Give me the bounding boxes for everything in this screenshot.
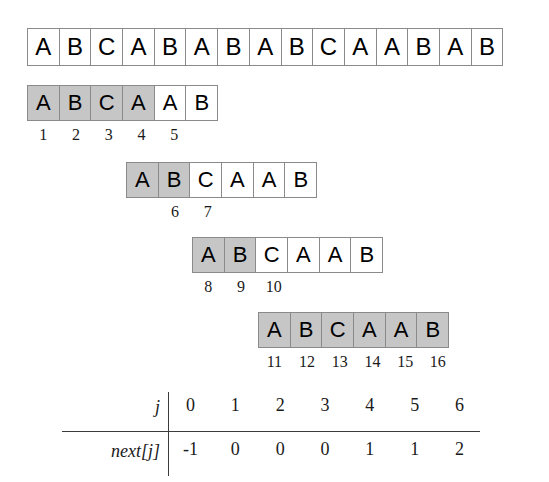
table-next-value: 1: [347, 440, 392, 470]
attempt-2-cell: A: [253, 162, 286, 198]
table-j-values: 0123456: [168, 396, 482, 426]
table-j-value: 0: [168, 396, 213, 426]
table-j-value: 1: [213, 396, 258, 426]
table-next-values: -1000112: [168, 440, 482, 470]
attempt-2-cell: C: [189, 162, 222, 198]
attempt-3-cell: A: [287, 237, 320, 273]
attempt-3-cell: A: [319, 237, 352, 273]
table-j-value: 2: [258, 396, 303, 426]
text-cell: A: [122, 28, 155, 66]
text-cell: A: [185, 28, 218, 66]
next-array-table: j next[j] 0123456 -1000112: [60, 392, 482, 478]
attempt-1-cell: A: [27, 85, 60, 121]
table-j-value: 6: [437, 396, 482, 426]
table-next-value: 0: [258, 440, 303, 470]
text-cell: A: [344, 28, 377, 66]
comparison-indices-attempt-4: 111213141516: [258, 354, 468, 376]
pattern-row-attempt-1: ABCAAB: [27, 85, 218, 121]
attempt-4-index-label: 15: [397, 354, 413, 370]
table-next-value: 0: [303, 440, 348, 470]
attempt-2-cell: B: [158, 162, 191, 198]
attempt-1-index-label: 1: [39, 127, 47, 143]
text-cell: A: [249, 28, 282, 66]
text-cell: B: [154, 28, 187, 66]
table-row-label-next: next[j]: [60, 442, 160, 460]
attempt-4-index-label: 16: [430, 354, 446, 370]
attempt-4-cell: C: [321, 312, 354, 348]
attempt-2-cell: A: [221, 162, 254, 198]
table-next-value: -1: [168, 440, 213, 470]
attempt-3-index-label: 9: [237, 279, 245, 295]
pattern-row-attempt-2: ABCAAB: [126, 162, 317, 198]
attempt-3-cell: C: [255, 237, 288, 273]
attempt-3-cell: A: [192, 237, 225, 273]
attempt-1-cell: C: [90, 85, 123, 121]
table-row-label-j: j: [60, 398, 160, 416]
attempt-4-cell: A: [258, 312, 291, 348]
attempt-2-cell: A: [126, 162, 159, 198]
attempt-2-index-label: 7: [204, 204, 212, 220]
attempt-3-cell: B: [350, 237, 383, 273]
comparison-indices-attempt-3: 8910: [192, 279, 392, 301]
attempt-3-index-label: 10: [266, 279, 282, 295]
attempt-4-cell: B: [290, 312, 323, 348]
text-cell: C: [312, 28, 345, 66]
text-cell: B: [217, 28, 250, 66]
attempt-1-cell: B: [59, 85, 92, 121]
text-cell: B: [471, 28, 504, 66]
table-next-value: 0: [213, 440, 258, 470]
table-j-value: 5: [392, 396, 437, 426]
attempt-1-cell: A: [122, 85, 155, 121]
comparison-indices-attempt-1: 12345: [27, 127, 227, 149]
pattern-row-attempt-3: ABCAAB: [192, 237, 383, 273]
attempt-4-cell: B: [416, 312, 449, 348]
attempt-4-index-label: 13: [332, 354, 348, 370]
attempt-1-cell: A: [154, 85, 187, 121]
comparison-indices-attempt-2: 67: [126, 204, 326, 226]
kmp-next-array-figure: ABCABABABCAABAB ABCAAB 12345 ABCAAB 67 A…: [0, 0, 549, 482]
attempt-1-cell: B: [185, 85, 218, 121]
text-cell: B: [281, 28, 314, 66]
attempt-1-index-label: 2: [72, 127, 80, 143]
attempt-3-cell: B: [224, 237, 257, 273]
text-cell: A: [376, 28, 409, 66]
table-horizontal-rule: [62, 431, 480, 432]
attempt-1-index-label: 3: [105, 127, 113, 143]
attempt-4-cell: A: [353, 312, 386, 348]
text-cell: A: [439, 28, 472, 66]
table-j-value: 3: [303, 396, 348, 426]
text-cell: B: [407, 28, 440, 66]
attempt-2-cell: B: [284, 162, 317, 198]
attempt-2-index-label: 6: [171, 204, 179, 220]
text-cell: C: [90, 28, 123, 66]
text-cell: A: [27, 28, 60, 66]
attempt-4-cell: A: [385, 312, 418, 348]
text-string-row: ABCABABABCAABAB: [27, 28, 503, 66]
table-j-value: 4: [347, 396, 392, 426]
pattern-row-attempt-4: ABCAAB: [258, 312, 449, 348]
table-next-value: 1: [392, 440, 437, 470]
attempt-1-index-label: 4: [137, 127, 145, 143]
attempt-4-index-label: 14: [364, 354, 380, 370]
attempt-1-index-label: 5: [170, 127, 178, 143]
attempt-4-index-label: 12: [299, 354, 315, 370]
table-next-value: 2: [437, 440, 482, 470]
text-cell: B: [59, 28, 92, 66]
attempt-3-index-label: 8: [204, 279, 212, 295]
attempt-4-index-label: 11: [267, 354, 282, 370]
